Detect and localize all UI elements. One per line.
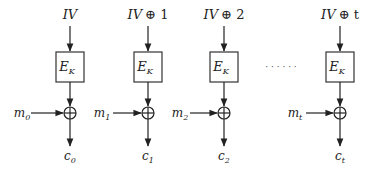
xor-icon-1 bbox=[142, 107, 154, 119]
message-label-0: m0 bbox=[14, 106, 30, 122]
xor-icon-3 bbox=[334, 107, 346, 119]
message-label-2: m2 bbox=[172, 106, 188, 122]
cipher-label-1: c1 bbox=[142, 149, 154, 165]
column-1: IV⊕ 1 EK m1 c1 bbox=[94, 7, 169, 165]
column-0: IV EK m0 c0 bbox=[14, 7, 84, 165]
column-2: IV⊕ 2 EK m2 c2 bbox=[172, 7, 245, 165]
column-3: IV⊕ t EK mt ct bbox=[288, 7, 360, 165]
iv-label-3: IV⊕ t bbox=[320, 7, 360, 22]
message-label-3: mt bbox=[288, 106, 303, 122]
ellipsis: · · · · · · bbox=[265, 62, 296, 72]
ctr-mode-diagram: IV EK m0 c0 IV⊕ 1 EK m1 c1 IV⊕ 2 bbox=[0, 0, 374, 171]
iv-label-2: IV⊕ 2 bbox=[203, 7, 245, 22]
iv-label-1: IV⊕ 1 bbox=[127, 7, 169, 22]
iv-label-0: IV bbox=[62, 7, 79, 22]
message-label-1: m1 bbox=[94, 106, 110, 122]
cipher-label-0: c0 bbox=[64, 149, 76, 165]
xor-icon-2 bbox=[218, 107, 230, 119]
cipher-label-2: c2 bbox=[218, 149, 230, 165]
xor-icon-0 bbox=[64, 107, 76, 119]
cipher-label-3: ct bbox=[335, 149, 346, 165]
